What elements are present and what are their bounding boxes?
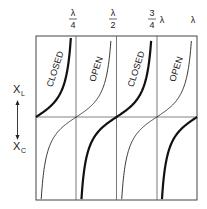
- inductive-label: X L: [13, 83, 25, 97]
- capacitive-label: X C: [13, 140, 26, 154]
- label-open-1: OPEN: [87, 55, 104, 82]
- tick-num: 3: [149, 8, 154, 18]
- tick-lambda-quarter: λ 4: [69, 8, 77, 30]
- tick-den: 4: [70, 20, 75, 30]
- label-closed-1: CLOSED: [45, 49, 66, 88]
- xl-sub: L: [21, 90, 25, 97]
- tick-den: 2: [110, 20, 115, 30]
- tick-suffix: λ: [160, 15, 165, 25]
- tick-lambda: λ: [191, 15, 196, 25]
- tick-lambda-half: λ 2: [109, 8, 117, 30]
- tick-num: λ: [111, 8, 116, 18]
- tick-den: 4: [149, 20, 154, 30]
- closed-curve-branch: [162, 117, 197, 199]
- tick-three-quarter-lambda: 3 4 λ: [148, 8, 165, 30]
- xc-sub: C: [21, 147, 26, 154]
- stub-reactance-diagram: λ 4 λ 2 3 4 λ λ X L X C CLOSED OPEN CLOS…: [0, 0, 207, 209]
- label-open-2: OPEN: [167, 55, 184, 82]
- double-arrow-icon: [16, 100, 20, 140]
- tick-num: λ: [71, 8, 76, 18]
- label-closed-2: CLOSED: [126, 49, 147, 88]
- xc-main: X: [13, 140, 21, 152]
- xl-main: X: [13, 83, 21, 95]
- tick-num: λ: [191, 15, 196, 25]
